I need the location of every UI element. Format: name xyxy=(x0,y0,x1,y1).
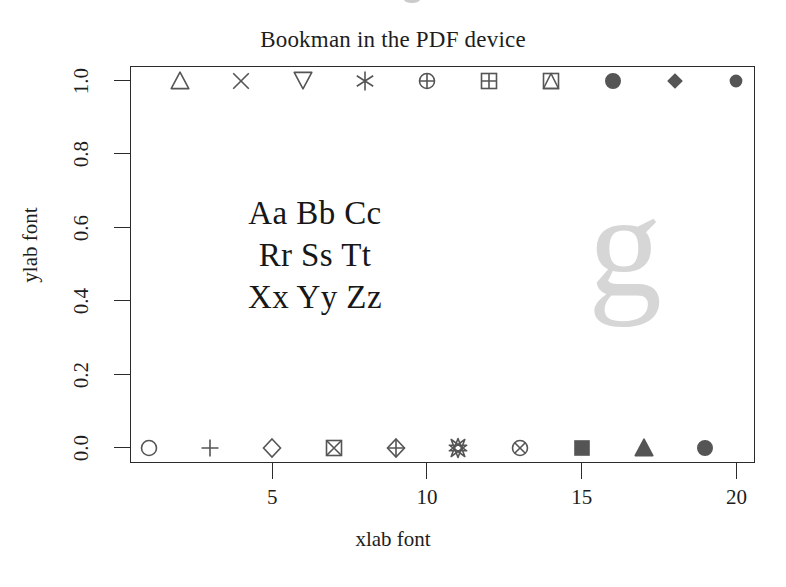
x-axis-tick xyxy=(581,463,582,479)
plot-title: Bookman in the PDF device xyxy=(0,27,786,53)
marker-pch-17-filled-triangle-up-icon xyxy=(631,435,657,461)
marker-pch-20-small-filled-circle-icon xyxy=(723,68,749,94)
top-edge-artifact xyxy=(404,0,420,3)
plot-figure: Bookman in the PDF device 0.00.20.40.60.… xyxy=(0,0,786,587)
x-axis-tick-label: 20 xyxy=(706,484,766,510)
marker-pch-10-circle-plus-icon xyxy=(414,68,440,94)
y-axis-tick xyxy=(114,374,130,375)
x-axis-tick xyxy=(272,463,273,479)
y-axis-tick-label-text: 0.2 xyxy=(70,346,92,404)
marker-pch-2-triangle-up-icon xyxy=(167,68,193,94)
marker-pch-9-diamond-plus-icon xyxy=(383,435,409,461)
marker-pch-16-filled-circle-icon xyxy=(600,68,626,94)
x-axis-label: xlab font xyxy=(0,527,786,552)
y-axis-tick-label-text: 0.4 xyxy=(70,272,92,330)
y-axis-tick-label: 0.4 xyxy=(52,290,110,312)
y-axis-tick xyxy=(114,300,130,301)
marker-pch-1-circle-icon xyxy=(136,435,162,461)
marker-pch-18-filled-diamond-icon xyxy=(662,68,688,94)
y-axis-tick xyxy=(114,153,130,154)
marker-pch-5-diamond-icon xyxy=(259,435,285,461)
marker-pch-6-triangle-down-icon xyxy=(290,68,316,94)
y-axis-tick xyxy=(114,80,130,81)
marker-pch-4-cross-x-icon xyxy=(228,68,254,94)
font-sample-text: Aa Bb Cc Rr Ss Tt Xx Yy Zz xyxy=(205,192,425,318)
marker-pch-13-circle-cross-icon xyxy=(507,435,533,461)
marker-pch-19-filled-circle-icon xyxy=(692,435,718,461)
font-sample-line-3: Xx Yy Zz xyxy=(205,276,425,318)
marker-pch-11-hexagram-star-icon xyxy=(445,435,471,461)
marker-pch-12-square-plus-icon xyxy=(476,68,502,94)
marker-pch-15-filled-square-icon xyxy=(569,435,595,461)
large-glyph-g: g xyxy=(545,155,705,335)
y-axis-tick-label: 0.2 xyxy=(52,364,110,386)
y-axis-tick-label: 0.0 xyxy=(52,437,110,459)
font-sample-line-1: Aa Bb Cc xyxy=(205,192,425,234)
y-axis-tick-label-text: 1.0 xyxy=(70,52,92,110)
font-sample-line-2: Rr Ss Tt xyxy=(205,234,425,276)
marker-pch-8-asterisk-icon xyxy=(352,68,378,94)
x-axis-tick-label: 5 xyxy=(242,484,302,510)
y-axis-tick-label-text: 0.8 xyxy=(70,125,92,183)
marker-pch-14-square-triangle-icon xyxy=(538,68,564,94)
marker-pch-3-plus-icon xyxy=(197,435,223,461)
y-axis-label: ylab font xyxy=(0,232,130,258)
x-axis-tick-label: 15 xyxy=(552,484,612,510)
x-axis-tick-label: 10 xyxy=(397,484,457,510)
y-axis-tick-label: 1.0 xyxy=(52,70,110,92)
y-axis-label-text: ylab font xyxy=(17,145,43,345)
y-axis-tick xyxy=(114,227,130,228)
x-axis-tick xyxy=(736,463,737,479)
y-axis-tick xyxy=(114,447,130,448)
y-axis-tick-label-text: 0.0 xyxy=(70,419,92,477)
y-axis-tick-label: 0.8 xyxy=(52,143,110,165)
marker-pch-7-square-cross-icon xyxy=(321,435,347,461)
x-axis-tick xyxy=(426,463,427,479)
